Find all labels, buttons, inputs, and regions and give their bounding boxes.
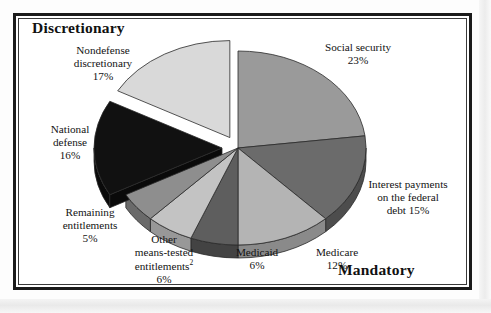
figure-container: Discretionary Mandatory Nondefense discr…: [0, 0, 491, 313]
slice-label-line: Social security: [300, 41, 416, 54]
slice-label-value: debt 15%: [350, 204, 466, 217]
footnote-marker: 2: [189, 258, 193, 267]
slice-label-national-defense: National defense 16%: [24, 123, 116, 163]
slice-label-other-means-tested-entitlements: Other means-tested entitlements2 6%: [110, 233, 218, 287]
slice-label-line: Medicare: [298, 246, 376, 259]
slice-label-line: on the federal: [350, 191, 466, 204]
slice-label-nondefense-discretionary: Nondefense discretionary 17%: [40, 44, 166, 84]
slice-label-line: National: [24, 123, 116, 136]
scan-edge-right: [479, 0, 491, 313]
slice-label-line: entitlements: [36, 219, 144, 232]
slice-label-value: 6%: [110, 273, 218, 286]
group-title-discretionary: Discretionary: [32, 19, 125, 37]
slice-label-value: 6%: [218, 259, 296, 272]
slice-label-medicare: Medicare 12%: [298, 246, 376, 272]
slice-label-line: Interest payments: [350, 178, 466, 191]
slice-label-line: Medicaid: [218, 246, 296, 259]
slice-label-value: 23%: [300, 54, 416, 67]
slice-label-value: 12%: [298, 259, 376, 272]
slice-label-interest-payments: Interest payments on the federal debt 15…: [350, 178, 466, 218]
slice-label-line-with-footnote: entitlements2: [110, 259, 218, 273]
slice-label-line: discretionary: [40, 57, 166, 70]
slice-label-social-security: Social security 23%: [300, 41, 416, 67]
slice-label-medicaid: Medicaid 6%: [218, 246, 296, 272]
scan-edge-bottom: [0, 299, 491, 313]
slice-label-line: Nondefense: [40, 44, 166, 57]
slice-label-line: Other: [110, 233, 218, 246]
slice-label-value: 17%: [40, 70, 166, 83]
slice-label-value: 16%: [24, 149, 116, 162]
slice-label-line: entitlements: [135, 260, 190, 272]
slice-label-line: Remaining: [36, 206, 144, 219]
slice-label-line: means-tested: [110, 246, 218, 259]
slice-label-line: defense: [24, 136, 116, 149]
